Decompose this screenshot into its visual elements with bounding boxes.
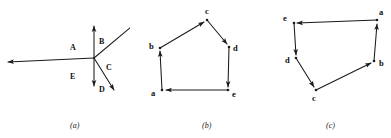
- panel-b: a b c d e (b): [130, 0, 260, 138]
- edge-e-to-d: [294, 23, 296, 55]
- vertex-label-b: b: [149, 41, 154, 51]
- vertex-label-a: a: [379, 7, 384, 17]
- edge-b-to-a: [374, 24, 377, 61]
- vertex-dot-e: [293, 22, 296, 25]
- ray-label-e: E: [70, 72, 75, 81]
- ray-a-line: [8, 58, 94, 62]
- vertex-dot-a: [376, 19, 379, 22]
- edge-a-to-b: [160, 51, 162, 90]
- edge-a-to-e: [297, 20, 377, 23]
- vertex-label-d: d: [285, 55, 290, 65]
- edge-c-to-d: [207, 20, 227, 44]
- vertex-dot-c: [206, 19, 209, 22]
- vertex-dot-e: [227, 89, 230, 92]
- polygon-diagram-c: e a b c d (c): [260, 0, 391, 138]
- panel-c: e a b c d (c): [260, 0, 391, 138]
- polygon-diagram-b: a b c d e (b): [130, 0, 260, 138]
- caption-a: (a): [70, 121, 80, 130]
- vertex-label-b: b: [379, 58, 384, 68]
- ray-label-b: B: [99, 37, 105, 46]
- caption-c: (c): [326, 121, 335, 130]
- vertex-dot-b: [159, 47, 162, 50]
- edge-d-to-c: [296, 58, 314, 87]
- vertex-label-d: d: [233, 43, 238, 53]
- vertex-label-c: c: [312, 93, 316, 103]
- edge-c-to-b: [316, 63, 371, 90]
- vertex-label-e: e: [232, 89, 236, 99]
- panel-a: A B C D E (a): [0, 0, 130, 138]
- vertex-label-e: e: [283, 13, 287, 23]
- vertex-dot-a: [161, 89, 164, 92]
- ray-label-d: D: [99, 85, 105, 94]
- vertex-dot-d: [295, 57, 298, 60]
- vertex-dot-d: [228, 46, 231, 49]
- edge-d-to-e: [228, 47, 229, 87]
- ray-label-c: C: [106, 63, 112, 72]
- vertex-dot-b: [373, 60, 376, 63]
- vertex-dot-c: [315, 89, 318, 92]
- vertex-label-a: a: [151, 88, 156, 98]
- ray-label-a: A: [70, 43, 76, 52]
- vertex-label-c: c: [205, 6, 209, 16]
- edge-b-to-c: [160, 22, 204, 48]
- figure-root: A B C D E (a) a b: [0, 0, 391, 138]
- ray-diagram-a: A B C D E (a): [0, 0, 130, 138]
- caption-b: (b): [202, 121, 212, 130]
